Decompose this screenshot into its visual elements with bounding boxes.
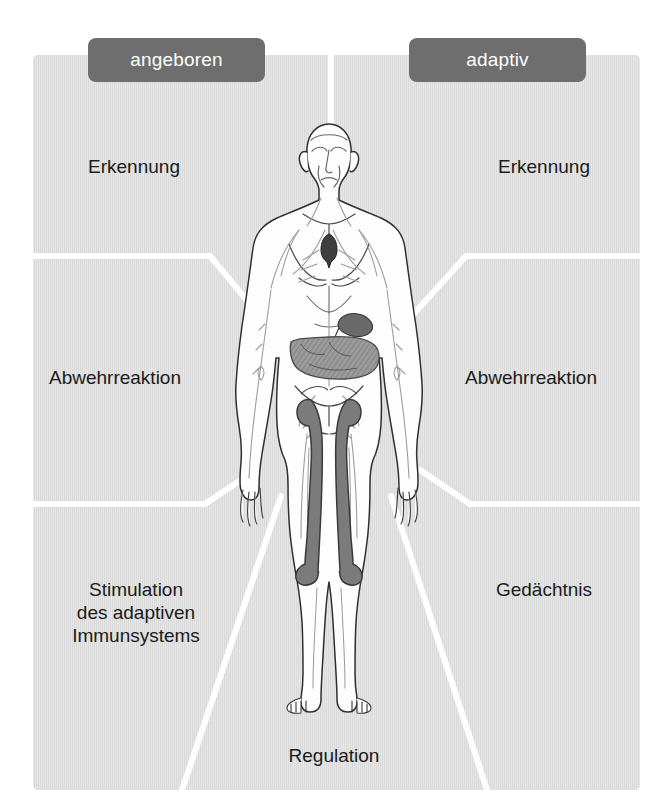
zone-label-adaptive-recognition: Erkennung [458,155,630,178]
human-body-figure-illustration [229,118,429,728]
intestine-organ [290,337,379,379]
zone-label-innate-recognition: Erkennung [48,155,220,178]
zone-label-adaptive-defence: Abwehrreaktion [436,366,626,389]
zone-label-adaptive-memory: Gedächtnis [458,578,630,601]
zone-label-innate-stimulation: Stimulation des adaptiven Immunsystems [46,578,226,647]
immune-system-diagram: angeboren adaptiv Erkennung Abwehrreakti… [0,0,657,808]
category-chip-adaptive-label: adaptiv [466,49,529,71]
category-chip-innate[interactable]: angeboren [88,38,265,82]
category-chip-adaptive[interactable]: adaptiv [409,38,586,82]
category-chip-innate-label: angeboren [130,49,223,71]
zone-label-regulation: Regulation [248,744,420,767]
zone-label-innate-defence: Abwehrreaktion [20,366,210,389]
